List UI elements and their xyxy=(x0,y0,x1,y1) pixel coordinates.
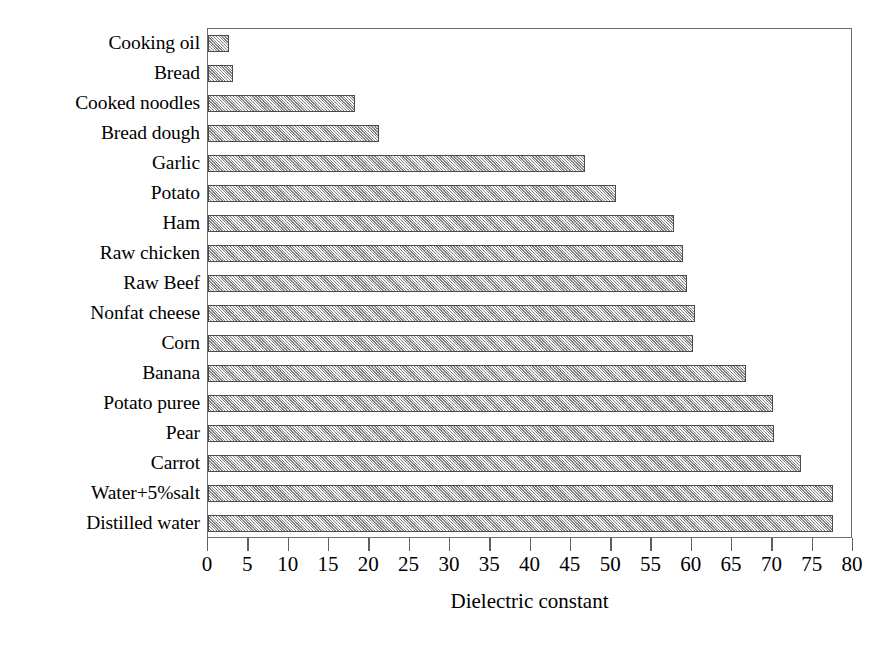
bar xyxy=(208,455,801,472)
x-tick xyxy=(288,538,289,551)
x-tick-label: 75 xyxy=(801,552,822,576)
x-tick-label: 5 xyxy=(242,552,253,576)
category-label: Cooked noodles xyxy=(0,93,200,113)
x-tick-label: 25 xyxy=(398,552,419,576)
x-tick-label: 30 xyxy=(438,552,459,576)
category-label: Banana xyxy=(0,363,200,383)
plot-area xyxy=(207,28,852,538)
bar xyxy=(208,245,683,262)
x-tick xyxy=(207,538,208,551)
x-tick xyxy=(489,538,490,551)
bar xyxy=(208,65,233,82)
category-label: Distilled water xyxy=(0,513,200,533)
category-label: Ham xyxy=(0,213,200,233)
x-axis-tick-labels: 05101520253035404550556065707580 xyxy=(207,552,852,582)
category-label: Pear xyxy=(0,423,200,443)
category-label: Bread xyxy=(0,63,200,83)
x-tick-label: 0 xyxy=(202,552,213,576)
x-tick xyxy=(852,538,853,551)
bar xyxy=(208,95,355,112)
bar xyxy=(208,485,833,502)
x-tick xyxy=(691,538,692,551)
category-label: Potato puree xyxy=(0,393,200,413)
category-label: Potato xyxy=(0,183,200,203)
category-label: Raw Beef xyxy=(0,273,200,293)
category-label: Carrot xyxy=(0,453,200,473)
bar xyxy=(208,125,379,142)
x-tick-label: 15 xyxy=(317,552,338,576)
category-label: Cooking oil xyxy=(0,33,200,53)
bar xyxy=(208,275,687,292)
category-label: Raw chicken xyxy=(0,243,200,263)
x-tick-label: 20 xyxy=(358,552,379,576)
x-tick xyxy=(409,538,410,551)
x-tick xyxy=(449,538,450,551)
x-tick xyxy=(731,538,732,551)
x-tick xyxy=(771,538,772,551)
bar xyxy=(208,215,674,232)
x-tick xyxy=(570,538,571,551)
x-tick xyxy=(368,538,369,551)
bar xyxy=(208,365,746,382)
bar xyxy=(208,515,833,532)
x-tick-label: 35 xyxy=(479,552,500,576)
category-axis-labels: Cooking oilBreadCooked noodlesBread doug… xyxy=(0,28,200,538)
x-tick-label: 80 xyxy=(842,552,863,576)
category-label: Bread dough xyxy=(0,123,200,143)
bar xyxy=(208,335,693,352)
category-label: Water+5%salt xyxy=(0,483,200,503)
category-label: Corn xyxy=(0,333,200,353)
bar xyxy=(208,155,585,172)
dielectric-constant-bar-chart: Cooking oilBreadCooked noodlesBread doug… xyxy=(0,0,894,646)
category-label: Garlic xyxy=(0,153,200,173)
bar xyxy=(208,395,773,412)
x-tick-label: 55 xyxy=(640,552,661,576)
x-tick xyxy=(530,538,531,551)
x-tick-label: 65 xyxy=(721,552,742,576)
x-tick xyxy=(610,538,611,551)
x-tick-label: 45 xyxy=(559,552,580,576)
x-axis-title: Dielectric constant xyxy=(207,588,852,614)
x-tick-label: 40 xyxy=(519,552,540,576)
category-label: Nonfat cheese xyxy=(0,303,200,323)
x-tick-label: 50 xyxy=(600,552,621,576)
x-tick xyxy=(650,538,651,551)
x-tick xyxy=(328,538,329,551)
bar xyxy=(208,305,695,322)
bar xyxy=(208,35,229,52)
bar xyxy=(208,425,774,442)
x-tick xyxy=(812,538,813,551)
x-tick-label: 60 xyxy=(680,552,701,576)
bar xyxy=(208,185,616,202)
x-tick-label: 70 xyxy=(761,552,782,576)
x-tick xyxy=(247,538,248,551)
x-tick-label: 10 xyxy=(277,552,298,576)
